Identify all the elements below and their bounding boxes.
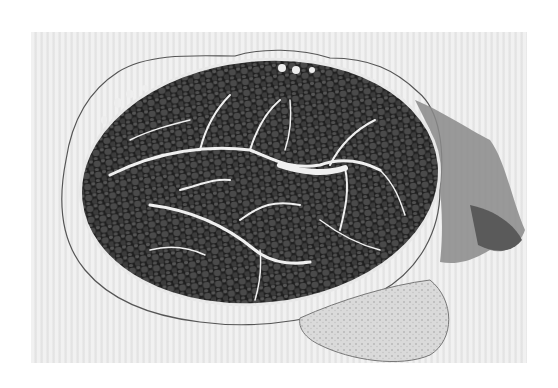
muscle-cross-section-image — [0, 0, 558, 388]
